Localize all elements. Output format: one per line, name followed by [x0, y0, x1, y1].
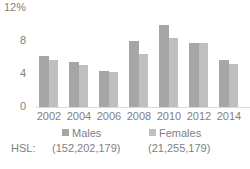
bar-males-2012: [189, 43, 199, 107]
x-axis-line: [36, 107, 250, 108]
males-label: Males: [72, 127, 101, 139]
males-hsl: (152,202,179): [52, 141, 121, 155]
bar-females-2006: [109, 72, 119, 107]
x-tick-2014: 2014: [214, 110, 244, 122]
y-tick-8: 8: [0, 34, 26, 46]
bar-males-2010: [159, 25, 169, 107]
bar-females-2014: [229, 64, 239, 107]
x-tick-2004: 2004: [64, 110, 94, 122]
bar-males-2014: [219, 60, 229, 107]
males-swatch-icon: [62, 129, 69, 136]
bar-females-2010: [169, 38, 179, 107]
hsl-label: HSL:: [11, 141, 35, 155]
bar-females-2012: [199, 43, 209, 107]
y-tick-12: 12%: [0, 1, 26, 13]
bar-males-2006: [99, 71, 109, 107]
x-tick-2006: 2006: [94, 110, 124, 122]
legend-females: Females: [149, 126, 201, 140]
bar-males-2004: [69, 62, 79, 107]
x-tick-2002: 2002: [34, 110, 64, 122]
bar-males-2008: [129, 41, 139, 107]
females-swatch-icon: [149, 129, 156, 136]
x-tick-2012: 2012: [184, 110, 214, 122]
y-tick-4: 4: [0, 67, 26, 79]
legend-males: Males: [62, 126, 101, 140]
bar-males-2002: [39, 56, 49, 107]
bar-females-2004: [79, 65, 89, 107]
bar-females-2002: [49, 60, 59, 107]
bar-females-2008: [139, 54, 149, 107]
x-tick-2008: 2008: [124, 110, 154, 122]
females-hsl: (21,255,179): [148, 141, 210, 155]
y-tick-0: 0: [0, 100, 26, 112]
females-label: Females: [159, 127, 201, 139]
x-tick-2010: 2010: [154, 110, 184, 122]
